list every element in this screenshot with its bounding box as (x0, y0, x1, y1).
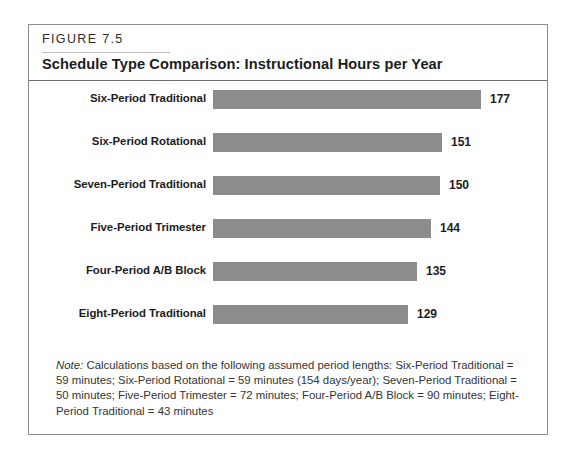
figure-number-divider (42, 52, 170, 53)
bar-category-label: Four-Period A/B Block (29, 264, 206, 276)
bar (213, 133, 442, 152)
figure-number-label: FIGURE 7.5 (42, 32, 124, 46)
bar (213, 305, 408, 324)
bar-row: Six-Period Rotational151 (29, 133, 547, 152)
bar-value-label: 135 (426, 264, 446, 278)
bar-row: Five-Period Trimester144 (29, 219, 547, 238)
bar (213, 262, 417, 281)
bar-row: Six-Period Traditional177 (29, 90, 547, 109)
bar-row: Seven-Period Traditional150 (29, 176, 547, 195)
bar (213, 90, 481, 109)
bar-value-label: 151 (451, 135, 471, 149)
figure-title: Schedule Type Comparison: Instructional … (42, 56, 443, 72)
bar-category-label: Six-Period Traditional (29, 92, 206, 104)
bar-value-label: 129 (417, 307, 437, 321)
bar (213, 219, 431, 238)
note-label: Note: (56, 359, 83, 371)
note-body: Calculations based on the following assu… (56, 359, 519, 417)
bar-category-label: Seven-Period Traditional (29, 178, 206, 190)
bar (213, 176, 440, 195)
bar-row: Four-Period A/B Block135 (29, 262, 547, 281)
figure-note: Note: Calculations based on the followin… (56, 358, 526, 419)
bar-category-label: Six-Period Rotational (29, 135, 206, 147)
bar-value-label: 177 (490, 92, 510, 106)
bar-chart-plot-area: Six-Period Traditional177Six-Period Rota… (29, 81, 547, 356)
figure-header: FIGURE 7.5 Schedule Type Comparison: Ins… (29, 25, 547, 81)
bar-row: Eight-Period Traditional129 (29, 305, 547, 324)
bar-category-label: Five-Period Trimester (29, 221, 206, 233)
bar-value-label: 150 (449, 178, 469, 192)
bar-value-label: 144 (440, 221, 460, 235)
figure-frame: FIGURE 7.5 Schedule Type Comparison: Ins… (28, 24, 548, 435)
bar-category-label: Eight-Period Traditional (29, 307, 206, 319)
